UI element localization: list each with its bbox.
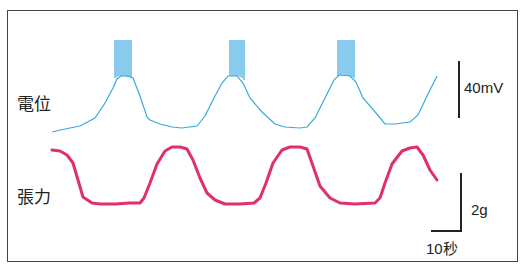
force-time-scale-bar: [431, 173, 461, 231]
potential-label: 電位: [17, 90, 51, 115]
voltage-scale-label: 40mV: [464, 79, 503, 96]
traces: [0, 0, 521, 270]
force-scale-label: 2g: [471, 201, 488, 218]
tension-label: 張力: [17, 183, 51, 208]
potential-trace: [52, 40, 437, 132]
time-scale-label: 10秒: [426, 237, 458, 258]
tension-trace: [52, 147, 437, 204]
